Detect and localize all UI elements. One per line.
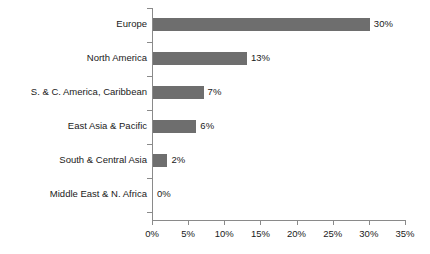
category-tick (147, 178, 152, 179)
bar-value-label: 7% (208, 85, 222, 98)
bar-row: South & Central Asia2% (0, 144, 430, 178)
category-tick (147, 76, 152, 77)
value-tick-label: 15% (251, 228, 270, 240)
value-tick (152, 221, 153, 225)
bar-row: East Asia & Pacific6% (0, 110, 430, 144)
category-label: East Asia & Pacific (68, 119, 147, 132)
value-tick-label: 25% (323, 228, 342, 240)
bar-chart: Europe30%North America13%S. & C. America… (0, 0, 430, 254)
value-tick-label: 20% (287, 228, 306, 240)
category-tick (147, 212, 152, 213)
category-label: Europe (116, 17, 147, 30)
bar-value-label: 2% (171, 153, 185, 166)
bar-row: North America13% (0, 42, 430, 76)
value-tick (260, 221, 261, 225)
value-tick-label: 30% (359, 228, 378, 240)
category-tick (147, 144, 152, 145)
value-tick-label: 10% (215, 228, 234, 240)
category-tick (147, 110, 152, 111)
value-tick (333, 221, 334, 225)
bar (153, 86, 204, 99)
value-tick-label: 5% (181, 228, 195, 240)
value-tick (297, 221, 298, 225)
value-tick (369, 221, 370, 225)
bar-row: Europe30% (0, 8, 430, 42)
bar (153, 18, 370, 31)
category-label: North America (87, 51, 147, 64)
category-label: S. & C. America, Caribbean (31, 85, 147, 98)
value-tick-label: 0% (145, 228, 159, 240)
bar-row: S. & C. America, Caribbean7% (0, 76, 430, 110)
value-tick (188, 221, 189, 225)
category-label: South & Central Asia (59, 153, 147, 166)
bar-value-label: 0% (157, 187, 171, 200)
bar-row: Middle East & N. Africa0% (0, 178, 430, 212)
bar (153, 120, 196, 133)
bar-value-label: 30% (374, 17, 393, 30)
bar-value-label: 13% (251, 51, 270, 64)
value-tick (224, 221, 225, 225)
value-tick (405, 221, 406, 225)
bar (153, 154, 167, 167)
bar (153, 52, 247, 65)
category-label: Middle East & N. Africa (50, 187, 147, 200)
value-tick-label: 35% (395, 228, 414, 240)
category-tick (147, 8, 152, 9)
bar-value-label: 6% (200, 119, 214, 132)
category-tick (147, 42, 152, 43)
